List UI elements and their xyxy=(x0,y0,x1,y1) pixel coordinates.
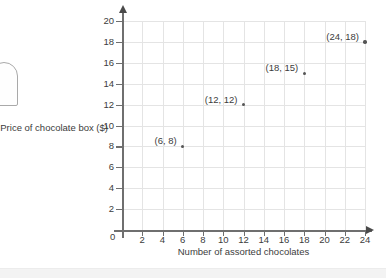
plot-area xyxy=(122,21,365,230)
y-axis-tick xyxy=(116,63,122,64)
y-axis-tick-label: 4 xyxy=(92,182,114,193)
x-axis-tick-label: 24 xyxy=(355,234,375,245)
y-axis-tick-label: 18 xyxy=(92,36,114,47)
x-axis-tick-label: 18 xyxy=(294,234,314,245)
y-axis-line xyxy=(122,12,124,238)
gridline-horizontal xyxy=(122,167,365,168)
y-axis-tick-label: 20 xyxy=(92,15,114,26)
y-axis-title: Price of chocolate box ($) xyxy=(0,122,108,133)
cropped-rounded-shape xyxy=(0,62,18,106)
x-axis-tick-label: 2 xyxy=(132,234,152,245)
y-axis-tick xyxy=(116,209,122,210)
y-axis-tick xyxy=(116,105,122,106)
y-axis-tick-label: 14 xyxy=(92,78,114,89)
x-axis-tick-label: 8 xyxy=(193,234,213,245)
y-axis-tick-label: 16 xyxy=(92,57,114,68)
gridline-horizontal xyxy=(122,146,365,147)
x-axis-arrow-icon xyxy=(366,226,374,234)
origin-label: 0 xyxy=(110,231,115,242)
data-point xyxy=(303,72,306,75)
y-axis-tick-label: 12 xyxy=(92,99,114,110)
x-axis-tick-label: 22 xyxy=(335,234,355,245)
y-axis-tick xyxy=(116,21,122,22)
y-axis-tick xyxy=(116,126,122,127)
y-axis-tick xyxy=(116,167,122,168)
x-axis-tick-label: 12 xyxy=(234,234,254,245)
x-axis-tick-label: 6 xyxy=(173,234,193,245)
gridline-horizontal xyxy=(122,84,365,85)
data-point-label: (24, 18) xyxy=(299,31,359,42)
y-axis-tick-label: 8 xyxy=(92,140,114,151)
gridline-horizontal xyxy=(122,126,365,127)
y-axis-tick xyxy=(116,146,122,147)
y-axis-arrow-icon xyxy=(119,5,127,13)
y-axis-tick xyxy=(116,188,122,189)
x-axis-tick-label: 4 xyxy=(153,234,173,245)
data-point-label: (12, 12) xyxy=(178,94,238,105)
gridline-horizontal xyxy=(122,188,365,189)
gridline-horizontal xyxy=(122,42,365,43)
y-axis-tick-label: 6 xyxy=(92,161,114,172)
x-axis-title: Number of assorted chocolates xyxy=(122,246,365,257)
y-axis-tick xyxy=(116,42,122,43)
x-axis-tick-label: 16 xyxy=(274,234,294,245)
x-axis-tick-label: 20 xyxy=(315,234,335,245)
x-axis-tick-label: 14 xyxy=(254,234,274,245)
data-point-label: (18, 15) xyxy=(238,62,298,73)
y-axis-tick xyxy=(116,84,122,85)
bottom-band xyxy=(0,268,386,278)
x-axis-tick-label: 10 xyxy=(213,234,233,245)
gridline-horizontal xyxy=(122,21,365,22)
data-point xyxy=(363,40,366,43)
gridline-vertical xyxy=(365,21,366,230)
y-axis-tick-label: 2 xyxy=(92,203,114,214)
gridline-horizontal xyxy=(122,209,365,210)
data-point-label: (6, 8) xyxy=(117,135,177,146)
